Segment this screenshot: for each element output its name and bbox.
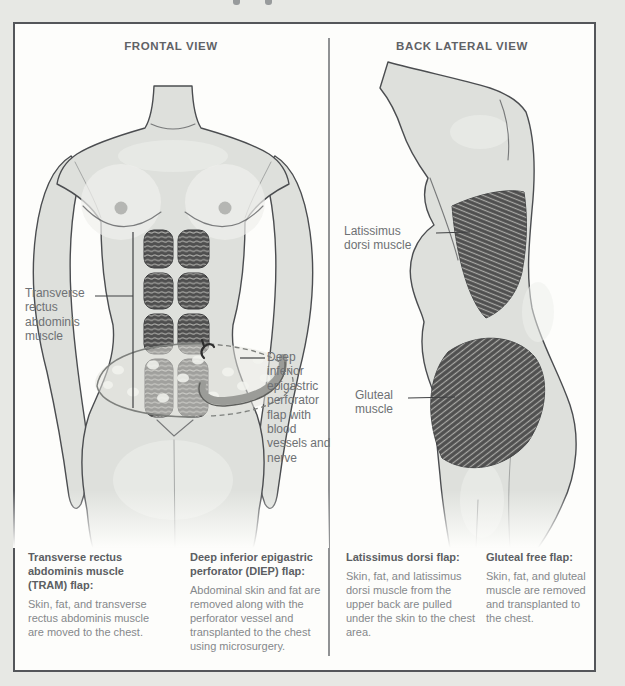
caption-gluteal-heading: Gluteal free flap: bbox=[486, 550, 596, 564]
cropped-text-remnant bbox=[265, 0, 272, 5]
shoulder-highlight bbox=[450, 115, 510, 149]
left-nipple bbox=[115, 202, 128, 215]
cropped-text-remnant bbox=[233, 0, 240, 5]
caption-diep-heading: Deep inferior epigastric perforator (DIE… bbox=[190, 550, 327, 578]
caption-latissimus-flap: Latissimus dorsi flap: Skin, fat, and la… bbox=[346, 550, 476, 639]
page: { "colors": { "page_bg": "#e7e8e4", "pan… bbox=[0, 0, 625, 686]
caption-diep-flap: Deep inferior epigastric perforator (DIE… bbox=[190, 550, 327, 654]
bottom-fade bbox=[330, 490, 594, 548]
caption-tram-body: Skin, fat, and transverse rectus abdomin… bbox=[28, 597, 160, 639]
label-latissimus-dorsi-muscle: Latissimus dorsi muscle bbox=[344, 224, 429, 253]
label-transverse-rectus-abdominis-muscle: Transverse rectus abdominis muscle bbox=[25, 286, 103, 344]
caption-tram-flap: Transverse rectus abdominis muscle (TRAM… bbox=[28, 550, 160, 639]
label-deep-inferior-epigastric-perforator-flap: Deep inferior epigastric perforator flap… bbox=[267, 350, 331, 465]
caption-tram-heading: Transverse rectus abdominis muscle (TRAM… bbox=[28, 550, 160, 592]
label-gluteal-muscle: Gluteal muscle bbox=[355, 388, 403, 417]
caption-latissimus-body: Skin, fat, and latissimus dorsi muscle f… bbox=[346, 569, 476, 639]
caption-diep-body: Abdominal skin and fat are removed along… bbox=[190, 583, 327, 653]
caption-gluteal-flap: Gluteal free flap: Skin, fat, and glutea… bbox=[486, 550, 596, 625]
caption-latissimus-heading: Latissimus dorsi flap: bbox=[346, 550, 476, 564]
caption-gluteal-body: Skin, fat, and gluteal muscle are remove… bbox=[486, 569, 596, 625]
hip-highlight bbox=[522, 282, 554, 342]
bottom-fade bbox=[13, 490, 329, 548]
header-back-lateral-view: BACK LATERAL VIEW bbox=[329, 40, 595, 52]
header-frontal-view: FRONTAL VIEW bbox=[13, 40, 329, 52]
right-nipple bbox=[219, 202, 232, 215]
back-lateral-figure-illustration bbox=[330, 60, 594, 548]
